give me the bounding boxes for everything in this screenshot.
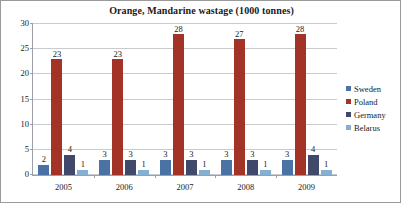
legend-item-poland[interactable]: Poland — [346, 95, 386, 108]
bar-value-label: 4 — [68, 145, 72, 154]
plot-area: 051015202530 223412005323312006328312007… — [32, 24, 337, 176]
x-axis-tick-label: 2008 — [237, 182, 254, 192]
bar-germany[interactable]: 3 — [247, 24, 258, 175]
bar-germany[interactable]: 4 — [308, 24, 319, 175]
bar-poland[interactable]: 28 — [295, 24, 306, 175]
bar-value-label: 28 — [296, 25, 305, 34]
y-axis-tick-label: 0 — [25, 169, 29, 179]
bar-rect[interactable] — [77, 170, 88, 175]
bar-value-label: 23 — [53, 50, 62, 59]
y-axis-tick-label: 10 — [21, 119, 30, 129]
bar-sweden[interactable]: 3 — [221, 24, 232, 175]
bar-belarus[interactable]: 1 — [77, 24, 88, 175]
x-axis-tick-mark — [276, 175, 277, 178]
bar-value-label: 4 — [311, 145, 315, 154]
bar-sweden[interactable]: 2 — [38, 24, 49, 175]
bar-rect[interactable] — [247, 160, 258, 175]
bar-value-label: 3 — [103, 150, 107, 159]
x-axis-tick-mark — [215, 175, 216, 178]
bar-rect[interactable] — [99, 160, 110, 175]
bar-group: 327312008 — [215, 24, 276, 175]
chart-legend: SwedenPolandGermanyBelarus — [346, 82, 386, 134]
bar-rect[interactable] — [138, 170, 149, 175]
bar-value-label: 2 — [42, 155, 46, 164]
bar-germany[interactable]: 3 — [186, 24, 197, 175]
legend-swatch-icon — [346, 99, 351, 104]
x-axis-tick-label: 2009 — [298, 182, 315, 192]
bar-sweden[interactable]: 3 — [99, 24, 110, 175]
y-axis-tick-label: 15 — [21, 94, 30, 104]
bar-rect[interactable] — [125, 160, 136, 175]
bar-rect[interactable] — [186, 160, 197, 175]
y-axis-tick-label: 30 — [21, 18, 30, 28]
bar-rect[interactable] — [282, 160, 293, 175]
bar-value-label: 23 — [113, 50, 122, 59]
bar-chart-figure: Orange, Mandarine wastage (1000 tonnes) … — [0, 0, 401, 203]
bar-rect[interactable] — [321, 170, 332, 175]
y-axis-tick-label: 25 — [21, 43, 30, 53]
bar-rect[interactable] — [64, 155, 75, 175]
bar-germany[interactable]: 4 — [64, 24, 75, 175]
bar-belarus[interactable]: 1 — [199, 24, 210, 175]
bar-value-label: 3 — [224, 150, 228, 159]
bar-sweden[interactable]: 3 — [282, 24, 293, 175]
legend-label: Poland — [354, 97, 378, 107]
legend-swatch-icon — [346, 125, 351, 130]
bar-value-label: 1 — [263, 160, 267, 169]
bar-value-label: 1 — [202, 160, 206, 169]
bar-value-label: 3 — [285, 150, 289, 159]
x-axis-tick-label: 2005 — [55, 182, 72, 192]
bar-value-label: 1 — [142, 160, 146, 169]
legend-item-belarus[interactable]: Belarus — [346, 121, 386, 134]
bars-layer: 2234120053233120063283120073273120083284… — [33, 24, 337, 175]
bar-rect[interactable] — [199, 170, 210, 175]
x-axis-tick-label: 2007 — [176, 182, 193, 192]
bar-value-label: 1 — [81, 160, 85, 169]
bar-rect[interactable] — [112, 59, 123, 175]
legend-label: Germany — [354, 110, 386, 120]
bar-poland[interactable]: 23 — [51, 24, 62, 175]
x-axis-tick-label: 2006 — [116, 182, 133, 192]
x-axis-tick-mark — [155, 175, 156, 178]
bar-group: 223412005 — [33, 24, 94, 175]
bar-rect[interactable] — [234, 39, 245, 175]
bar-rect[interactable] — [308, 155, 319, 175]
bar-value-label: 3 — [189, 150, 193, 159]
bar-belarus[interactable]: 1 — [321, 24, 332, 175]
bar-value-label: 27 — [235, 30, 244, 39]
bar-rect[interactable] — [160, 160, 171, 175]
bar-poland[interactable]: 23 — [112, 24, 123, 175]
bar-value-label: 1 — [324, 160, 328, 169]
bar-value-label: 3 — [163, 150, 167, 159]
x-axis-tick-mark — [94, 175, 95, 178]
bar-belarus[interactable]: 1 — [260, 24, 271, 175]
legend-label: Sweden — [354, 84, 381, 94]
bar-value-label: 28 — [174, 25, 183, 34]
bar-rect[interactable] — [173, 34, 184, 175]
bar-germany[interactable]: 3 — [125, 24, 136, 175]
bar-rect[interactable] — [221, 160, 232, 175]
bar-rect[interactable] — [38, 165, 49, 175]
bar-rect[interactable] — [295, 34, 306, 175]
legend-swatch-icon — [346, 112, 351, 117]
y-axis-tick-label: 20 — [21, 68, 30, 78]
bar-sweden[interactable]: 3 — [160, 24, 171, 175]
bar-value-label: 3 — [250, 150, 254, 159]
legend-item-sweden[interactable]: Sweden — [346, 82, 386, 95]
bar-group: 328312007 — [155, 24, 216, 175]
bar-rect[interactable] — [51, 59, 62, 175]
y-axis-tick-label: 5 — [25, 144, 29, 154]
bar-group: 323312006 — [94, 24, 155, 175]
legend-item-germany[interactable]: Germany — [346, 108, 386, 121]
bar-poland[interactable]: 27 — [234, 24, 245, 175]
bar-rect[interactable] — [260, 170, 271, 175]
legend-label: Belarus — [354, 123, 380, 133]
bar-group: 328412009 — [276, 24, 337, 175]
bar-poland[interactable]: 28 — [173, 24, 184, 175]
legend-swatch-icon — [346, 86, 351, 91]
bar-belarus[interactable]: 1 — [138, 24, 149, 175]
chart-title: Orange, Mandarine wastage (1000 tonnes) — [1, 5, 401, 16]
bar-value-label: 3 — [129, 150, 133, 159]
